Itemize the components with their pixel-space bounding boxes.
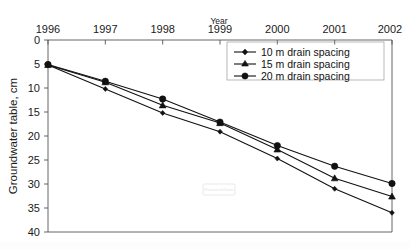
y-tick-label: 0	[34, 34, 40, 46]
legend-item-15m[interactable]: 15 m drain spacing	[234, 58, 350, 70]
diamond-marker-icon	[242, 49, 247, 55]
y-tick-label: 5	[34, 58, 40, 70]
y-axis-title: Groundwater table, cm	[7, 78, 19, 194]
circle-marker-icon	[102, 78, 108, 84]
y-tick-labels: 0 5 10 15 20 25 30 35 40	[28, 34, 40, 238]
x-tick-label: 1997	[93, 23, 117, 35]
circle-marker-icon	[331, 163, 337, 169]
figure-bottom-margin	[0, 241, 410, 249]
circle-marker-icon	[242, 73, 248, 79]
x-tick-label: 2001	[322, 23, 346, 35]
diamond-marker-icon	[160, 110, 165, 115]
circle-marker-icon	[274, 142, 280, 148]
triangle-marker-icon	[331, 175, 338, 181]
y-tick-label: 35	[28, 202, 40, 214]
diamond-marker-icon	[103, 86, 108, 91]
diamond-marker-icon	[390, 210, 395, 215]
chart-canvas: 1996 1997 1998 1999 2000 2001 2002 Year …	[0, 0, 410, 249]
legend-label: 15 m drain spacing	[261, 58, 350, 70]
circle-marker-icon	[217, 119, 223, 125]
legend-label: 20 m drain spacing	[261, 70, 350, 82]
triangle-marker-icon	[242, 60, 249, 66]
legend-item-10m[interactable]: 10 m drain spacing	[234, 46, 350, 58]
watermark: ResearchGate	[203, 184, 235, 195]
diamond-marker-icon	[275, 156, 280, 161]
diamond-marker-icon	[332, 186, 337, 191]
y-tick-label: 10	[28, 82, 40, 94]
y-tick-label: 25	[28, 154, 40, 166]
y-tick-label: 20	[28, 130, 40, 142]
x-tick-label: 2000	[265, 23, 289, 35]
legend-label: 10 m drain spacing	[261, 46, 350, 58]
groundwater-table-chart: 1996 1997 1998 1999 2000 2001 2002 Year …	[0, 0, 410, 249]
y-tick-marks	[44, 40, 48, 232]
circle-marker-icon	[159, 96, 165, 102]
x-tick-label: 2002	[378, 23, 402, 35]
circle-marker-icon	[45, 61, 51, 67]
circle-marker-icon	[389, 180, 395, 186]
y-tick-label: 15	[28, 106, 40, 118]
y-tick-label: 30	[28, 178, 40, 190]
diamond-marker-icon	[218, 129, 223, 134]
watermark-label: ResearchGate	[204, 187, 234, 192]
legend: 10 m drain spacing 15 m drain spacing 20…	[227, 42, 384, 82]
x-tick-label: 1998	[150, 23, 174, 35]
x-axis-title: Year	[210, 16, 227, 26]
y-tick-label: 40	[28, 226, 40, 238]
